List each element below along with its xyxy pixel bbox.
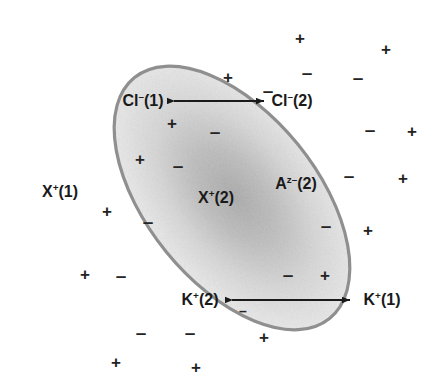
- charge-minus-inside-bot-right: –: [283, 265, 294, 284]
- charge-plus-outside-upper-left: +: [223, 69, 233, 86]
- label-x-1: X+(1): [42, 184, 78, 200]
- charge-plus-outside-right-up: +: [398, 170, 408, 187]
- charge-minus-inside-top-a: –: [302, 63, 313, 82]
- charge-plus-outside-left-mid: +: [135, 151, 145, 168]
- diagram-canvas: Cl–(1)Cl–(2)X+(1)X+(2)Az–(2)K+(2)K+(1) +…: [0, 0, 439, 386]
- charge-plus-outside-bottom: +: [191, 359, 201, 376]
- label-cl-1: Cl–(1): [122, 93, 163, 109]
- charge-minus-inside-right-up: –: [365, 120, 376, 139]
- charge-minus-inside-left-up: –: [210, 122, 221, 141]
- charge-plus-outside-right-mid: +: [363, 222, 373, 239]
- charge-plus-outside-left-bot: +: [80, 266, 90, 283]
- charge-plus-outside-top-right: +: [381, 41, 391, 58]
- charge-plus-outside-left-upper: +: [167, 115, 177, 132]
- label-x-2: X+(2): [198, 190, 234, 206]
- charge-minus-inside-bottom-a: –: [136, 323, 147, 342]
- label-a-z-2: Az–(2): [275, 176, 317, 192]
- charge-minus-inside-bottom-b: –: [185, 323, 196, 342]
- charge-minus-inside-left-low: –: [143, 212, 154, 231]
- charge-minus-inside-below-k2: –: [239, 304, 247, 318]
- charge-plus-outside-right-top: +: [407, 123, 417, 140]
- label-k-2: K+(2): [182, 292, 219, 308]
- charge-plus-outside-left-low: +: [102, 203, 112, 220]
- charge-plus-outside-top: +: [295, 30, 305, 47]
- charge-minus-inside-right-mid: –: [344, 166, 355, 185]
- charge-minus-inside-left-mid: –: [173, 156, 184, 175]
- charge-plus-outside-right-low: +: [320, 267, 330, 284]
- label-k-1: K+(1): [364, 292, 401, 308]
- charge-plus-outside-bottom-left: +: [111, 354, 121, 371]
- charge-minus-inside-top-b: –: [353, 68, 364, 87]
- charge-minus-inside-left-bot: –: [116, 266, 127, 285]
- charge-minus-inside-right-low: –: [321, 216, 332, 235]
- charge-minus-inside-upper-mid: –: [263, 81, 274, 100]
- charge-plus-outside-bottom-rt: +: [259, 329, 269, 346]
- label-cl-2: Cl–(2): [271, 93, 312, 109]
